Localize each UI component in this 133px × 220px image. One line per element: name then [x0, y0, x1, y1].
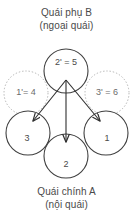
node-label-mid-left: 1'= 4	[16, 87, 36, 97]
node-label-bottom-right: 1	[104, 133, 109, 143]
diagram-title-bottom: Quái chính A (nội quái)	[0, 186, 133, 211]
node-label-bottom-left: 3	[24, 133, 29, 143]
trigram-diagram: Quái phụ B (ngoại quái) 2' = 5 1'= 4	[0, 0, 133, 220]
node-label-bottom-center: 2	[63, 159, 68, 169]
diagram-title-bottom-line1: Quái chính A	[0, 186, 133, 199]
diagram-title-bottom-line2: (nội quái)	[0, 199, 133, 212]
node-label-mid-right: 3' = 6	[96, 87, 118, 97]
arrow-to-1	[66, 80, 100, 121]
node-label-top-center: 2' = 5	[55, 57, 77, 67]
